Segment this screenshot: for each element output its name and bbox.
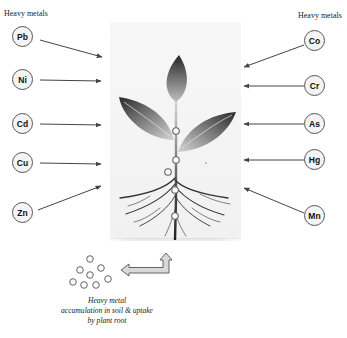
- arrow-pb: [40, 40, 102, 57]
- metal-pb-circle: Pb: [12, 26, 33, 47]
- leaf-top: [167, 55, 187, 102]
- caption-line-3: by plant root: [40, 316, 174, 326]
- metal-ni-circle: Ni: [12, 69, 33, 90]
- metal-label: Pb: [17, 32, 28, 42]
- metal-as-circle: As: [304, 113, 325, 134]
- arrow-ni: [40, 80, 101, 81]
- metal-co-circle: Co: [304, 30, 325, 51]
- metal-mn-circle: Mn: [304, 205, 325, 226]
- metal-label: Hg: [309, 155, 320, 165]
- metal-label: Cd: [17, 119, 28, 129]
- metal-zn-circle: Zn: [12, 202, 33, 223]
- metal-label: Co: [309, 36, 320, 46]
- arrow-co: [244, 45, 304, 67]
- arrow-mn: [244, 188, 304, 213]
- caption-line-2: accumulation in soil & uptake: [40, 306, 174, 316]
- diagram-graphics: [0, 0, 347, 338]
- arrow-zn: [38, 186, 101, 210]
- metal-cr-circle: Cr: [304, 75, 325, 96]
- metal-label: Cr: [310, 81, 319, 91]
- leaf-right: [178, 112, 236, 152]
- caption-line-1: Heavy metal: [40, 296, 174, 306]
- plant-illustration: [119, 55, 236, 240]
- right-arrows: [244, 45, 304, 213]
- bent-arrow: [121, 253, 172, 276]
- metal-cd-circle: Cd: [12, 113, 33, 134]
- arrow-cu: [40, 163, 101, 164]
- metal-label: Ni: [18, 75, 27, 85]
- metal-cu-circle: Cu: [12, 152, 33, 173]
- arrow-cd: [40, 124, 101, 125]
- metal-hg-circle: Hg: [304, 149, 325, 170]
- metal-label: Zn: [17, 208, 27, 218]
- metal-label: Cu: [17, 158, 28, 168]
- metal-label: As: [309, 119, 320, 129]
- soil-uptake-caption: Heavy metal accumulation in soil & uptak…: [40, 296, 174, 326]
- left-arrows: [38, 40, 102, 210]
- soil-particles: [70, 256, 112, 289]
- metal-label: Mn: [308, 211, 320, 221]
